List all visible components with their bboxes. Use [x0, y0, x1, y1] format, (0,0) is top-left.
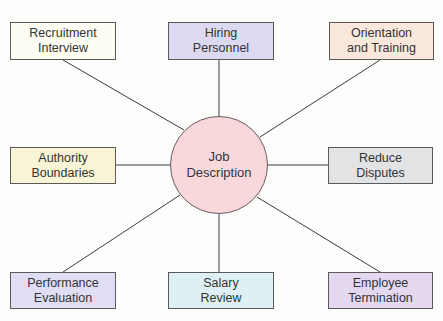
node-label: Hiring Personnel [193, 26, 249, 56]
node-performance-evaluation: Performance Evaluation [10, 272, 116, 309]
connector-orientation-and-training [260, 60, 380, 137]
node-label: Employee Termination [348, 276, 413, 306]
center-node-label: Job Description [186, 149, 251, 181]
node-authority-boundaries: Authority Boundaries [10, 147, 116, 184]
center-node-job-description: Job Description [170, 116, 268, 214]
connector-recruitment-interview [63, 60, 184, 130]
node-hiring-personnel: Hiring Personnel [168, 22, 274, 60]
node-label: Orientation and Training [347, 26, 416, 56]
node-label: Salary Review [201, 276, 242, 306]
node-label: Authority Boundaries [31, 151, 94, 181]
node-label: Reduce Disputes [356, 151, 405, 181]
node-label: Recruitment Interview [29, 26, 96, 56]
node-salary-review: Salary Review [168, 272, 274, 309]
node-label: Performance Evaluation [27, 276, 99, 306]
node-employee-termination: Employee Termination [328, 272, 433, 309]
connector-employee-termination [257, 197, 380, 272]
node-recruitment-interview: Recruitment Interview [10, 22, 116, 60]
connector-performance-evaluation [63, 195, 180, 272]
node-orientation-and-training: Orientation and Training [329, 22, 434, 60]
job-description-diagram: Job Description Recruitment Interview Hi… [0, 0, 443, 321]
node-reduce-disputes: Reduce Disputes [328, 147, 433, 184]
